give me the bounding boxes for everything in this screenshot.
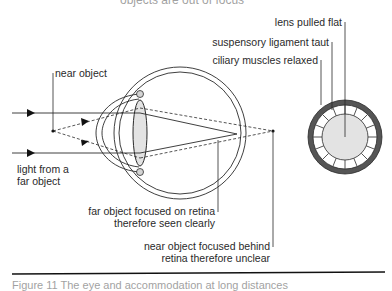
label-light-far-line2: far object [17, 175, 60, 187]
label-ciliary-muscles: ciliary muscles relaxed [212, 54, 318, 66]
arrow-icon [27, 149, 35, 157]
label-near-focused-line2: retina therefore unclear [161, 252, 270, 264]
ciliary-muscle-bottom [137, 169, 144, 176]
label-near-focused-line1: near object focused behind [144, 240, 270, 252]
label-far-focused-line1: far object focused on retina [88, 205, 215, 217]
bottom-rule [12, 272, 385, 274]
label-far-focused-line2: therefore seen clearly [114, 217, 215, 229]
figure-caption: Figure 11 The eye and accommodation at l… [12, 279, 288, 291]
label-light-far-line1: light from a [17, 163, 69, 175]
eyeball [96, 67, 246, 199]
far-rays [12, 113, 237, 153]
ciliary-muscle-top [137, 91, 144, 98]
near-rays [53, 108, 273, 158]
label-lens-pulled-flat: lens pulled flat [275, 16, 342, 28]
arrow-icon [81, 140, 89, 146]
label-suspensory-ligament: suspensory ligament taut [212, 36, 329, 48]
arrow-icon [27, 109, 35, 117]
label-near-object: near object [55, 67, 107, 79]
